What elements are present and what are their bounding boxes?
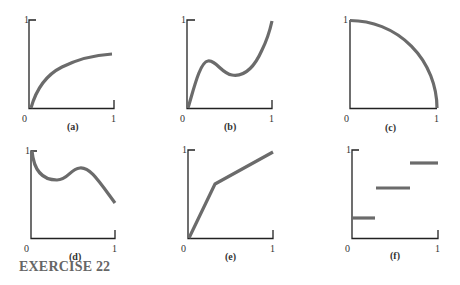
y-tick-1-a: 1: [24, 14, 29, 25]
y-tick-1-d: 1: [25, 145, 30, 156]
y-tick-1-c: 1: [343, 14, 348, 25]
curve-b: [188, 21, 272, 108]
graph-c: 1 0 1 (c): [343, 14, 439, 134]
y-tick-1-e: 1: [182, 144, 187, 155]
x-tick-0-f: 0: [345, 243, 350, 254]
graph-b: 1 0 1 (b): [180, 14, 274, 133]
curve-d: [32, 151, 115, 203]
x-tick-0-b: 0: [180, 113, 185, 124]
curve-e: [189, 152, 273, 238]
axes-d: [31, 151, 115, 239]
x-tick-0-d: 0: [24, 243, 29, 254]
x-tick-1-b: 1: [269, 113, 274, 124]
caption-c: (c): [385, 122, 396, 134]
exercise-label: EXERCISE 22: [19, 259, 110, 275]
x-tick-1-f: 1: [435, 243, 440, 254]
caption-b: (b): [224, 121, 236, 133]
graph-d: 1 0 1 (d): [24, 145, 117, 263]
curve-a: [31, 54, 112, 108]
caption-a: (a): [67, 121, 79, 133]
y-tick-1-b: 1: [181, 14, 186, 25]
x-tick-1-c: 1: [434, 113, 439, 124]
graph-e: 1 0 1 (e): [181, 144, 275, 263]
x-tick-0-c: 0: [344, 113, 349, 124]
caption-e: (e): [225, 251, 236, 263]
exercise-figure: 1 0 1 (a) 1 0 1 (b) 1 0 1 (c) 1 0 1 (d) …: [0, 0, 460, 285]
graph-f: 1 0 1 (f): [345, 144, 440, 262]
curve-c: [350, 21, 437, 109]
x-tick-1-d: 1: [112, 243, 117, 254]
graph-a: 1 0 1 (a): [22, 14, 116, 133]
axes-e: [188, 150, 273, 239]
x-tick-0-a: 0: [22, 113, 27, 124]
x-tick-0-e: 0: [181, 243, 186, 254]
axes-b: [187, 20, 272, 109]
y-tick-1-f: 1: [346, 144, 351, 155]
x-tick-1-e: 1: [270, 243, 275, 254]
x-tick-1-a: 1: [111, 113, 116, 124]
caption-f: (f): [390, 250, 400, 262]
